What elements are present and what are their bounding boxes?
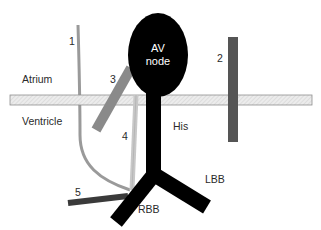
av-node-label-line1: AV: [151, 42, 166, 54]
pathway-3-label: 3: [110, 73, 116, 85]
conduction-diagram: AV node Atrium Ventricle His LBB RBB 1 2…: [0, 0, 321, 230]
left-bundle-branch: [150, 172, 207, 207]
pathway-5-label: 5: [75, 186, 81, 198]
pathway-4-label: 4: [122, 130, 128, 142]
ventricle-label: Ventricle: [22, 115, 62, 127]
pathway-1-label: 1: [69, 35, 75, 47]
pathway-2-label: 2: [217, 52, 223, 64]
his-label: His: [173, 120, 188, 132]
av-node-label-line2: node: [146, 55, 170, 67]
rbb-label: RBB: [138, 203, 160, 215]
pathway-2-bar: [228, 37, 238, 142]
atrium-label: Atrium: [22, 73, 53, 85]
lbb-label: LBB: [205, 173, 225, 185]
